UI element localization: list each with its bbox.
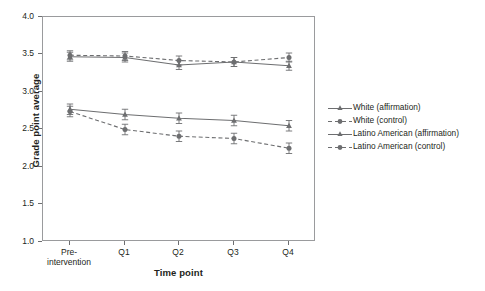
- x-axis-title: Time point: [42, 267, 315, 278]
- legend-item-latino-control: Latino American (control): [327, 140, 483, 153]
- x-tick-label-line2: intervention: [34, 257, 104, 267]
- y-tick-label-2.5: 2.5: [8, 124, 34, 133]
- x-tick-mark-q2: [178, 241, 179, 245]
- legend-key-circle-dashed-icon-2: [327, 140, 353, 153]
- chart-legend: White (affirmation) White (control) Lati…: [327, 101, 483, 153]
- legend-label-latino-control: Latino American (control): [353, 142, 445, 151]
- x-tick-label-q4: Q4: [253, 247, 323, 257]
- series-canvas: [43, 17, 316, 242]
- marker-circle: [177, 134, 182, 139]
- y-tick-label-1.5: 1.5: [8, 199, 34, 208]
- chart-figure: Grade point average 1.0 1.5 2.0 2.5 3.0 …: [0, 0, 485, 291]
- y-tick-label-3.5: 3.5: [8, 49, 34, 58]
- x-tick-mark-q3: [233, 241, 234, 245]
- x-tick-mark-q1: [124, 241, 125, 245]
- marker-circle: [287, 146, 292, 151]
- y-tick-label-4.0: 4.0: [8, 12, 34, 21]
- marker-circle: [123, 54, 128, 59]
- y-tick-label-2.0: 2.0: [8, 162, 34, 171]
- legend-label-latino-affirmation: Latino American (affirmation): [353, 129, 459, 138]
- x-tick-mark-pre-intervention: [69, 241, 70, 245]
- legend-item-white-control: White (control): [327, 114, 483, 127]
- marker-circle: [287, 55, 292, 60]
- series-2: [67, 104, 292, 131]
- legend-label-white-affirmation: White (affirmation): [353, 103, 421, 112]
- legend-item-white-affirmation: White (affirmation): [327, 101, 483, 114]
- marker-circle: [232, 136, 237, 141]
- legend-key-triangle-solid-icon-2: [327, 127, 353, 140]
- y-tick-label-3.0: 3.0: [8, 87, 34, 96]
- marker-circle: [68, 109, 73, 114]
- marker-circle: [68, 53, 73, 58]
- x-tick-mark-q4: [288, 241, 289, 245]
- legend-label-white-control: White (control): [353, 116, 407, 125]
- y-tick-mark-1.0: [38, 241, 42, 242]
- plot-area: [42, 16, 315, 241]
- legend-item-latino-affirmation: Latino American (affirmation): [327, 127, 483, 140]
- y-tick-label-1.0: 1.0: [8, 237, 34, 246]
- marker-circle: [177, 58, 182, 63]
- marker-circle: [123, 127, 128, 132]
- legend-key-triangle-solid-icon: [327, 101, 353, 114]
- marker-circle: [232, 60, 237, 65]
- legend-key-circle-dashed-icon: [327, 114, 353, 127]
